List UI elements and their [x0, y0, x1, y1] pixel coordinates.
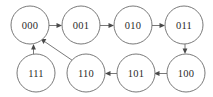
node-011[interactable]: 011 — [165, 6, 203, 44]
edge-100-to-101 — [154, 71, 167, 76]
node-100[interactable]: 100 — [167, 54, 205, 92]
node-101[interactable]: 101 — [117, 54, 155, 92]
node-001-label: 001 — [73, 20, 89, 31]
node-001[interactable]: 001 — [62, 6, 100, 44]
node-111-label: 111 — [28, 68, 44, 79]
node-101-label: 101 — [128, 68, 144, 79]
node-011-label: 011 — [176, 20, 192, 31]
edge-000-to-001 — [49, 23, 62, 28]
node-100-label: 100 — [178, 68, 194, 79]
node-110-label: 110 — [78, 68, 94, 79]
state-transition-graph: 000 001 010 011 111 110 101 100 — [0, 0, 213, 97]
diagram-canvas: 000 001 010 011 111 110 101 100 — [0, 0, 213, 97]
edge-001-to-010 — [100, 23, 114, 28]
edge-111-to-000 — [31, 44, 36, 54]
node-110[interactable]: 110 — [67, 54, 105, 92]
node-010-label: 010 — [125, 20, 141, 31]
edge-101-to-110 — [105, 71, 117, 76]
node-000[interactable]: 000 — [11, 6, 49, 44]
node-111[interactable]: 111 — [17, 54, 55, 92]
node-000-label: 000 — [22, 20, 38, 31]
edge-011-to-100 — [183, 44, 188, 54]
node-010[interactable]: 010 — [114, 6, 152, 44]
edge-010-to-011 — [152, 23, 165, 28]
